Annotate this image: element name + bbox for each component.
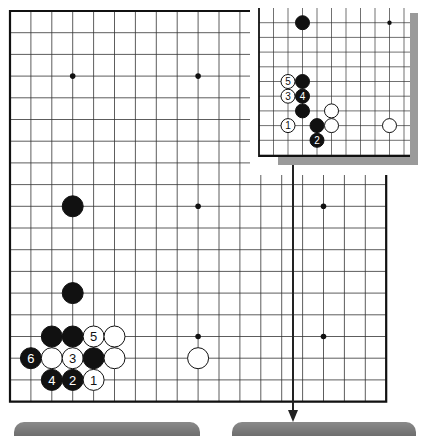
white-stone: 1 <box>281 119 295 133</box>
white-stone <box>325 104 339 118</box>
white-stone <box>104 326 125 347</box>
star-point <box>321 334 327 340</box>
move-number: 6 <box>27 351 34 366</box>
white-stone <box>41 348 62 369</box>
star-point <box>195 334 201 340</box>
black-stone <box>310 119 324 133</box>
star-point <box>195 204 201 210</box>
white-stone: 3 <box>281 89 295 103</box>
black-stone: 2 <box>310 133 324 147</box>
move-number: 5 <box>90 329 97 344</box>
star-point <box>70 73 76 79</box>
black-stone <box>296 104 310 118</box>
black-stone: 4 <box>296 89 310 103</box>
black-stone <box>62 196 83 217</box>
move-number: 4 <box>300 91 306 102</box>
black-stone <box>296 75 310 89</box>
white-stone: 5 <box>281 75 295 89</box>
move-number: 3 <box>69 351 76 366</box>
caption-bar-left <box>14 422 200 436</box>
move-number: 4 <box>48 373 55 388</box>
arrow <box>288 160 298 422</box>
black-stone <box>296 16 310 30</box>
white-stone <box>104 348 125 369</box>
black-stone: 4 <box>41 369 62 390</box>
white-stone: 3 <box>62 348 83 369</box>
inset-board: 53412 <box>259 8 418 165</box>
move-number: 1 <box>90 373 97 388</box>
move-number: 5 <box>285 76 291 87</box>
white-stone <box>325 119 339 133</box>
move-number: 3 <box>285 91 291 102</box>
star-point <box>387 21 391 25</box>
star-point <box>321 204 327 210</box>
move-number: 2 <box>314 135 320 146</box>
black-stone: 6 <box>20 348 41 369</box>
black-stone <box>62 326 83 347</box>
move-number: 1 <box>285 120 291 131</box>
star-point <box>195 73 201 79</box>
white-stone: 1 <box>83 369 104 390</box>
black-stone <box>62 283 83 304</box>
black-stone: 2 <box>62 369 83 390</box>
white-stone <box>383 119 397 133</box>
white-stone <box>188 348 209 369</box>
white-stone: 5 <box>83 326 104 347</box>
move-number: 2 <box>69 373 76 388</box>
caption-bar-right <box>232 422 416 436</box>
black-stone <box>41 326 62 347</box>
black-stone <box>83 348 104 369</box>
